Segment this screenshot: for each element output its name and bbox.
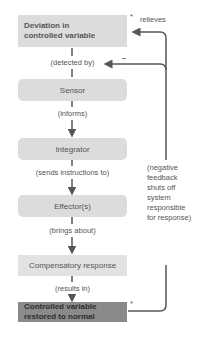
note-line: responsible (147, 203, 191, 213)
node-deviation: Deviation in controlled variable (18, 15, 127, 47)
node-restored: Controlled variable restored to normal (18, 302, 127, 322)
node-label: controlled variable (24, 31, 95, 41)
note-line: feedback (147, 173, 191, 183)
node-label: Deviation in (24, 21, 95, 31)
asterisk-bottom: * (130, 299, 133, 309)
node-compensatory-response: Compensatory response (18, 255, 127, 276)
node-effector: Effector(s) (18, 195, 127, 217)
node-sensor: Sensor (18, 79, 127, 101)
edge-label-informs: (informs) (18, 109, 127, 118)
node-label: Controlled variable (24, 302, 96, 312)
note-line: (negative (147, 163, 191, 173)
note-line: system (147, 193, 191, 203)
note-line: for response) (147, 213, 191, 223)
edge-label-sends-instructions: (sends instructions to) (18, 168, 127, 177)
feedback-note: (negative feedback shuts off system resp… (147, 163, 191, 223)
asterisk-top: * (130, 12, 133, 22)
edge-label-results-in: (results in) (18, 284, 127, 293)
edge-label-brings-about: (brings about) (18, 226, 127, 235)
relieves-label: relieves (140, 15, 166, 25)
edge-label-detected-by: (detected by) (18, 58, 127, 67)
node-integrator: Integrator (18, 138, 127, 160)
node-label: restored to normal (24, 312, 96, 322)
note-line: shuts off (147, 183, 191, 193)
